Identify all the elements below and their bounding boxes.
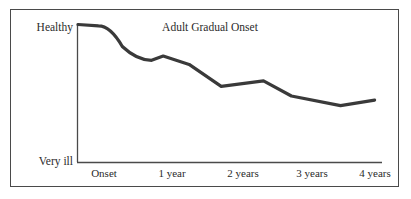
x-tick-label-4-years: 4 years	[345, 168, 405, 179]
x-tick-label-2-years: 2 years	[213, 168, 273, 179]
x-tick-label-3-years: 3 years	[282, 168, 342, 179]
x-tick-label-onset: Onset	[74, 168, 134, 179]
y-axis-bottom-label: Very ill	[0, 156, 73, 168]
y-axis-top-label: Healthy	[0, 22, 73, 34]
chart-title: Adult Gradual Onset	[140, 22, 280, 34]
figure-container: Healthy Very ill Adult Gradual Onset Ons…	[0, 0, 411, 199]
x-tick-label-1-year: 1 year	[142, 168, 202, 179]
data-series-line	[78, 25, 375, 106]
